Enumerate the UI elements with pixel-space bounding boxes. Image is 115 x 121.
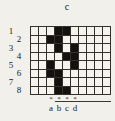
grid-cell bbox=[31, 87, 39, 96]
grid-cell bbox=[79, 61, 87, 70]
grid-cell bbox=[95, 61, 103, 70]
grid-cell bbox=[31, 70, 39, 79]
grid-cell bbox=[31, 53, 39, 62]
grid-cell bbox=[39, 61, 47, 70]
row-label: 6 bbox=[15, 69, 23, 78]
grid-cell bbox=[103, 53, 111, 62]
grid-cell bbox=[47, 53, 55, 62]
grid-cell bbox=[95, 36, 103, 45]
grid-cell bbox=[39, 70, 47, 79]
grid-cell bbox=[63, 36, 71, 45]
grid-cell bbox=[95, 53, 103, 62]
grid-cell bbox=[103, 27, 111, 36]
grid-cell bbox=[95, 70, 103, 79]
grid-cell bbox=[79, 87, 87, 96]
grid-cell bbox=[31, 61, 39, 70]
grid-cell bbox=[55, 78, 63, 87]
grid-cell bbox=[103, 36, 111, 45]
row-label: 5 bbox=[7, 61, 15, 70]
row-label: 7 bbox=[7, 78, 15, 87]
grid-cell bbox=[87, 44, 95, 53]
repeat-line bbox=[55, 101, 111, 102]
grid-cell bbox=[55, 87, 63, 96]
grid-cell bbox=[31, 44, 39, 53]
grid-cell bbox=[55, 27, 63, 36]
grid-cell bbox=[103, 87, 111, 96]
grid-cell bbox=[39, 78, 47, 87]
grid-cell bbox=[87, 61, 95, 70]
grid-cell bbox=[39, 36, 47, 45]
grid-cell bbox=[103, 61, 111, 70]
grid-cell bbox=[79, 78, 87, 87]
grid-cell bbox=[95, 44, 103, 53]
pattern-grid bbox=[30, 26, 111, 95]
grid-cell bbox=[87, 78, 95, 87]
grid-cell bbox=[39, 53, 47, 62]
grid-cell bbox=[55, 70, 63, 79]
grid-cell bbox=[71, 44, 79, 53]
row-label: 4 bbox=[15, 52, 23, 61]
grid-cell bbox=[47, 36, 55, 45]
figure: c 12345678 **** abcd bbox=[0, 0, 115, 121]
grid-cell bbox=[95, 78, 103, 87]
grid-cell bbox=[71, 27, 79, 36]
grid-cell bbox=[103, 44, 111, 53]
grid-cell bbox=[71, 78, 79, 87]
grid-cell bbox=[47, 27, 55, 36]
grid-cell bbox=[95, 87, 103, 96]
grid-cell bbox=[55, 44, 63, 53]
grid-cell bbox=[63, 70, 71, 79]
grid-cell bbox=[39, 87, 47, 96]
grid-cell bbox=[63, 61, 71, 70]
grid-cell bbox=[63, 78, 71, 87]
row-label: 3 bbox=[7, 44, 15, 53]
grid-cell bbox=[87, 36, 95, 45]
grid-cell bbox=[47, 78, 55, 87]
grid-cell bbox=[79, 53, 87, 62]
row-label: 8 bbox=[15, 86, 23, 95]
grid-cell bbox=[71, 87, 79, 96]
grid-cell bbox=[63, 87, 71, 96]
grid-cell bbox=[71, 70, 79, 79]
grid-cell bbox=[55, 61, 63, 70]
grid-cell bbox=[39, 44, 47, 53]
col-label: d bbox=[70, 103, 80, 113]
grid-cell bbox=[87, 53, 95, 62]
grid-cell bbox=[47, 61, 55, 70]
grid-cell bbox=[63, 44, 71, 53]
row-label: 2 bbox=[15, 35, 23, 44]
grid-cell bbox=[71, 61, 79, 70]
grid-cell bbox=[63, 27, 71, 36]
grid-cell bbox=[95, 27, 103, 36]
grid-cell bbox=[103, 70, 111, 79]
grid-cell bbox=[71, 36, 79, 45]
grid-cell bbox=[31, 27, 39, 36]
grid-cell bbox=[79, 36, 87, 45]
grid-cell bbox=[79, 70, 87, 79]
grid-cell bbox=[63, 53, 71, 62]
grid-cell bbox=[71, 53, 79, 62]
row-label: 1 bbox=[7, 27, 15, 36]
grid-cell bbox=[79, 27, 87, 36]
grid-cell bbox=[55, 53, 63, 62]
grid-cell bbox=[103, 78, 111, 87]
grid-cell bbox=[31, 36, 39, 45]
grid-cell bbox=[79, 44, 87, 53]
grid-cell bbox=[87, 70, 95, 79]
grid-cell bbox=[55, 36, 63, 45]
grid-cell bbox=[47, 87, 55, 96]
figure-title: c bbox=[61, 1, 73, 12]
grid-cell bbox=[31, 78, 39, 87]
grid-cell bbox=[87, 27, 95, 36]
grid-cell bbox=[39, 27, 47, 36]
grid-cell bbox=[47, 70, 55, 79]
grid-cell bbox=[47, 44, 55, 53]
grid-cell bbox=[87, 87, 95, 96]
